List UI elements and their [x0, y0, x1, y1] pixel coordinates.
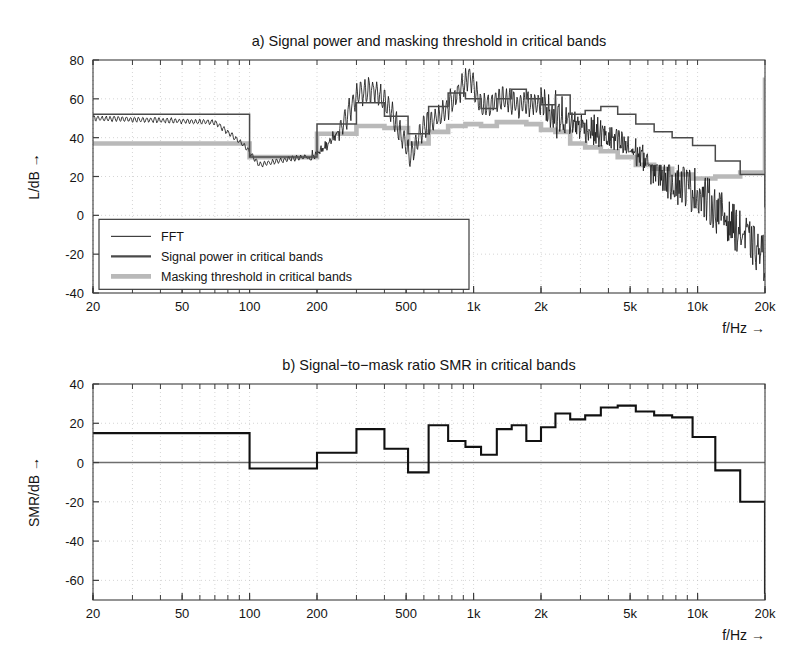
panel-a-title: a) Signal power and masking threshold in…	[252, 33, 607, 49]
ytick-label: -60	[65, 573, 84, 588]
xtick-label: 20k	[755, 606, 776, 621]
panel-b-title: b) Signal−to−mask ratio SMR in critical …	[282, 357, 575, 373]
legend-label-3: Masking threshold in critical bands	[161, 270, 352, 284]
xtick-label: 500	[395, 299, 417, 314]
ytick-label: -20	[65, 495, 84, 510]
ytick-label: 0	[77, 456, 84, 471]
xtick-label: 2k	[534, 299, 548, 314]
ytick-label: 40	[70, 377, 84, 392]
xtick-label: 5k	[623, 606, 637, 621]
legend-label-1: FFT	[161, 230, 184, 244]
legend-label-2: Signal power in critical bands	[161, 250, 323, 264]
figure-container: a) Signal power and masking threshold in…	[0, 0, 809, 661]
xtick-label: 20k	[755, 299, 776, 314]
xtick-label: 50	[175, 606, 189, 621]
ytick-label: -40	[65, 534, 84, 549]
ytick-label: 20	[70, 416, 84, 431]
xtick-label: 5k	[623, 299, 637, 314]
panel-b: b) Signal−to−mask ratio SMR in critical …	[26, 357, 776, 643]
xtick-label: 2k	[534, 606, 548, 621]
xtick-label: 1k	[467, 299, 481, 314]
series-smr	[93, 406, 765, 595]
figure-svg: a) Signal power and masking threshold in…	[0, 0, 809, 661]
panel-b-xlabel: f/Hz →	[722, 627, 765, 643]
xtick-label: 1k	[467, 606, 481, 621]
xtick-label: 20	[86, 606, 100, 621]
panel-b-data	[93, 406, 765, 595]
ytick-label: 0	[77, 208, 84, 223]
panel-a: a) Signal power and masking threshold in…	[26, 33, 776, 336]
ytick-label: 20	[70, 170, 84, 185]
ytick-label: 40	[70, 131, 84, 146]
ytick-label: -40	[65, 286, 84, 301]
panel-a-legend: FFTSignal power in critical bandsMasking…	[99, 219, 469, 289]
xtick-label: 500	[395, 606, 417, 621]
xtick-label: 50	[175, 299, 189, 314]
ytick-label: -20	[65, 247, 84, 262]
xtick-label: 100	[239, 606, 261, 621]
panel-b-ylabel: SMR/dB →	[26, 457, 42, 527]
xtick-label: 10k	[687, 606, 708, 621]
xtick-label: 200	[306, 606, 328, 621]
ytick-label: 60	[70, 92, 84, 107]
xtick-label: 20	[86, 299, 100, 314]
panel-a-xlabel: f/Hz →	[722, 320, 765, 336]
xtick-label: 200	[306, 299, 328, 314]
ytick-label: 80	[70, 53, 84, 68]
xtick-label: 10k	[687, 299, 708, 314]
panel-a-ylabel: L/dB →	[26, 153, 42, 200]
xtick-label: 100	[239, 299, 261, 314]
series-signal-power	[93, 89, 765, 207]
